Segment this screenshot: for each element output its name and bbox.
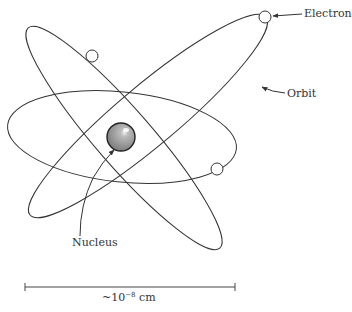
electron-top-right <box>259 11 271 23</box>
electron-right <box>211 163 223 175</box>
scale-bar <box>25 283 235 291</box>
scale-prefix: ~10 <box>102 291 125 304</box>
orbit-leader-arrow <box>262 87 285 93</box>
electron-leader-arrow <box>273 14 302 16</box>
scale-unit: cm <box>136 291 156 304</box>
orbit-label: Orbit <box>287 88 316 99</box>
electron-label: Electron <box>304 8 352 19</box>
scale-exponent: −8 <box>125 291 135 299</box>
electron-top-left <box>86 50 98 62</box>
scale-label: ~10−8 cm <box>102 292 156 303</box>
ascending-orbit <box>11 0 286 238</box>
nucleus-label: Nucleus <box>72 237 118 248</box>
nucleus <box>107 123 135 151</box>
